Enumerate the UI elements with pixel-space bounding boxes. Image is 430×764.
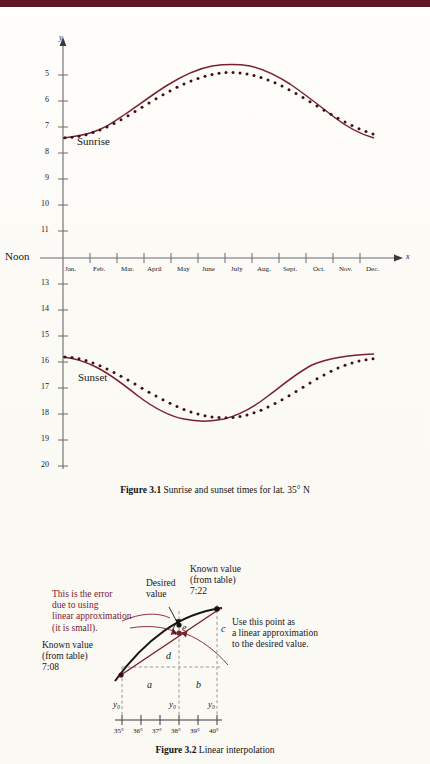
figure-3-2: This is the error due to using linear ap… bbox=[0, 555, 430, 755]
y-axis-label: y bbox=[59, 33, 63, 42]
approximation-point bbox=[176, 630, 181, 635]
noon-label: Noon bbox=[5, 250, 29, 263]
known-value-top-line-2: 7:22 bbox=[190, 586, 241, 597]
y-tick-pm-0: 13 bbox=[41, 278, 49, 287]
y-tick-pm-1: 14 bbox=[41, 304, 49, 313]
page-top-band bbox=[0, 0, 430, 7]
desired-value-line-0: Desired bbox=[146, 578, 176, 589]
y0-label-0: y₀ bbox=[113, 699, 120, 710]
known-point-right bbox=[214, 606, 220, 612]
figure-3-2-caption: Figure 3.2 Linear interpolation bbox=[0, 745, 430, 755]
known-point-left bbox=[118, 672, 123, 677]
x-tick-month-1: Feb. bbox=[93, 265, 105, 273]
y-tick-pm-2: 15 bbox=[41, 330, 49, 339]
sunrise-series-label: Sunrise bbox=[77, 135, 110, 148]
error-annotation-line-3: (it is small). bbox=[52, 623, 131, 634]
x-tick-month-5: June bbox=[202, 265, 215, 273]
use-point-annotation: Use this point as a linear approximation… bbox=[232, 617, 318, 651]
sunset-curve bbox=[63, 354, 375, 421]
error-annotation: This is the error due to using linear ap… bbox=[52, 589, 131, 634]
figure-3-2-caption-prefix: Figure 3.2 bbox=[155, 745, 196, 755]
y0-label-1: y₀ bbox=[169, 699, 176, 710]
known-value-top-annotation: Known value (from table) 7:22 bbox=[190, 564, 241, 598]
y0-label-2: y₀ bbox=[208, 699, 215, 710]
use-point-line-1: a linear approximation bbox=[232, 628, 318, 639]
x-tick-month-10: Nov. bbox=[339, 265, 352, 273]
known-value-bottom-line-1: (from table) bbox=[42, 651, 93, 662]
figure-3-1-caption: Figure 3.1 Sunrise and sunset times for … bbox=[0, 485, 430, 495]
x-tick-month-7: Aug. bbox=[257, 265, 271, 273]
interp-x-tick-1: 36° bbox=[133, 727, 143, 735]
segment-label-b: b bbox=[196, 679, 201, 691]
interp-x-tick-2: 37° bbox=[152, 727, 162, 735]
x-tick-month-0: Jan. bbox=[65, 265, 76, 273]
figure-3-1: y x Noon 5 6 7 8 9 10 11 13 14 15 16 17 … bbox=[0, 7, 430, 507]
segment-label-a: a bbox=[147, 679, 152, 691]
y-tick-pm-3: 16 bbox=[41, 356, 49, 365]
x-tick-month-4: May bbox=[177, 265, 190, 273]
page-body: y x Noon 5 6 7 8 9 10 11 13 14 15 16 17 … bbox=[0, 7, 430, 764]
y-tick-pm-4: 17 bbox=[41, 382, 49, 391]
segment-label-e: e bbox=[182, 622, 186, 634]
y-tick-pm-6: 19 bbox=[41, 434, 49, 443]
sunrise-sunset-chart bbox=[0, 7, 430, 507]
error-annotation-line-0: This is the error bbox=[52, 589, 131, 600]
x-tick-month-3: April bbox=[147, 265, 162, 273]
error-annotation-line-2: linear approximation bbox=[52, 611, 131, 622]
interp-x-tick-5: 40° bbox=[209, 727, 219, 735]
known-value-bottom-line-0: Known value bbox=[42, 640, 93, 651]
known-value-top-line-0: Known value bbox=[190, 564, 241, 575]
use-point-line-2: to the desired value. bbox=[232, 639, 318, 650]
figure-3-1-caption-text: Sunrise and sunset times for lat. 35° N bbox=[164, 485, 310, 495]
y-tick-am-0: 5 bbox=[45, 69, 49, 78]
known-value-top-line-1: (from table) bbox=[190, 575, 241, 586]
interp-x-tick-4: 39° bbox=[190, 727, 200, 735]
sunrise-curve bbox=[63, 65, 375, 140]
y-tick-am-1: 6 bbox=[45, 95, 49, 104]
x-tick-month-2: Mar. bbox=[121, 265, 134, 273]
segment-label-d: d bbox=[166, 650, 171, 662]
y-tick-am-6: 11 bbox=[41, 225, 49, 234]
desired-value-line-1: value bbox=[146, 589, 176, 600]
interp-axis bbox=[115, 715, 222, 725]
known-value-bottom-annotation: Known value (from table) 7:08 bbox=[42, 640, 93, 674]
desired-value-annotation: Desired value bbox=[146, 578, 176, 600]
x-tick-month-11: Dec. bbox=[366, 265, 379, 273]
interp-x-tick-3: 38° bbox=[171, 727, 181, 735]
use-point-line-0: Use this point as bbox=[232, 617, 318, 628]
use-point-leader bbox=[181, 631, 228, 665]
chart-axes bbox=[40, 37, 403, 469]
figure-3-2-caption-text: Linear interpolation bbox=[199, 745, 275, 755]
y-tick-pm-7: 20 bbox=[41, 460, 49, 469]
interp-x-tick-0: 35° bbox=[114, 727, 124, 735]
y-tick-am-5: 10 bbox=[41, 199, 49, 208]
x-tick-month-6: July bbox=[231, 265, 243, 273]
x-axis-label: x bbox=[406, 252, 410, 261]
y-tick-am-3: 8 bbox=[45, 147, 49, 156]
y-tick-am-4: 9 bbox=[45, 173, 49, 182]
error-annotation-line-1: due to using bbox=[52, 600, 131, 611]
figure-3-1-caption-prefix: Figure 3.1 bbox=[120, 485, 161, 495]
x-tick-month-8: Sept. bbox=[283, 265, 297, 273]
x-tick-month-9: Oct. bbox=[313, 265, 325, 273]
known-value-bottom-line-2: 7:08 bbox=[42, 662, 93, 673]
sunset-series-label: Sunset bbox=[78, 371, 107, 384]
segment-label-c: c bbox=[221, 623, 225, 635]
y-tick-am-2: 7 bbox=[45, 121, 49, 130]
y-tick-pm-5: 18 bbox=[41, 408, 49, 417]
